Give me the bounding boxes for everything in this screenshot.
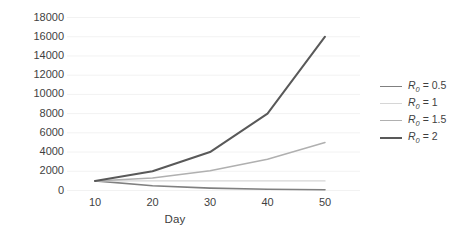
legend-label: R0 = 2 bbox=[408, 130, 438, 145]
gridlines bbox=[67, 18, 360, 191]
legend: R0 = 0.5R0 = 1R0 = 1.5R0 = 2 bbox=[380, 78, 459, 146]
legend-label: R0 = 0.5 bbox=[408, 79, 446, 94]
y-tick-label: 6000 bbox=[20, 126, 64, 138]
series-line-3 bbox=[95, 37, 325, 181]
x-tick-label: 30 bbox=[195, 196, 225, 208]
y-tick-label: 16000 bbox=[20, 30, 64, 42]
y-tick-label: 18000 bbox=[20, 11, 64, 23]
legend-item-1[interactable]: R0 = 1 bbox=[380, 95, 459, 112]
x-tick-label: 20 bbox=[138, 196, 168, 208]
x-tick-label: 10 bbox=[80, 196, 110, 208]
legend-item-2[interactable]: R0 = 1.5 bbox=[380, 112, 459, 129]
y-tick-label: 12000 bbox=[20, 68, 64, 80]
x-axis-title: Day bbox=[0, 213, 350, 225]
legend-label: R0 = 1 bbox=[408, 96, 438, 111]
y-tick-label: 10000 bbox=[20, 87, 64, 99]
y-tick-label: 4000 bbox=[20, 145, 64, 157]
legend-label: R0 = 1.5 bbox=[408, 113, 446, 128]
y-tick-label: 14000 bbox=[20, 49, 64, 61]
legend-swatch-icon bbox=[380, 120, 402, 121]
legend-swatch-icon bbox=[380, 137, 402, 139]
y-tick-label: 2000 bbox=[20, 164, 64, 176]
legend-swatch-icon bbox=[380, 86, 402, 87]
legend-item-0[interactable]: R0 = 0.5 bbox=[380, 78, 459, 95]
line-chart: Infections 02000400060008000100001200014… bbox=[0, 0, 459, 242]
y-tick-label: 8000 bbox=[20, 107, 64, 119]
x-tick-label: 50 bbox=[310, 196, 340, 208]
series-line-0 bbox=[95, 181, 325, 190]
x-tick-label: 40 bbox=[253, 196, 283, 208]
y-tick-label: 0 bbox=[20, 184, 64, 196]
legend-swatch-icon bbox=[380, 103, 402, 104]
legend-item-3[interactable]: R0 = 2 bbox=[380, 129, 459, 146]
